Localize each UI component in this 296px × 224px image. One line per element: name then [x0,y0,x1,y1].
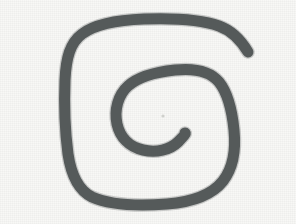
spiral-stroke [65,19,248,205]
spiral-sketch [0,0,296,224]
sketch-canvas: A hand-drawn spiral with about two round… [0,0,296,224]
spiral-center-dot [161,114,164,117]
